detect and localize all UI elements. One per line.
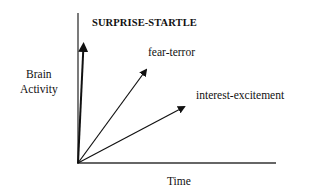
interest-excitement-arrow <box>78 107 184 163</box>
surprise-startle-label: SURPRISE-STARTLE <box>92 16 197 29</box>
y-axis-label: Brain Activity <box>20 67 58 97</box>
fear-terror-arrow <box>78 70 146 163</box>
y-axis-label-line-1: Brain <box>20 67 58 82</box>
surprise-startle-arrow <box>78 45 84 163</box>
interest-excitement-label: interest-excitement <box>196 89 284 102</box>
x-axis-label: Time <box>167 175 191 188</box>
fear-terror-label: fear-terror <box>148 46 195 59</box>
y-axis-label-line-2: Activity <box>20 82 58 97</box>
